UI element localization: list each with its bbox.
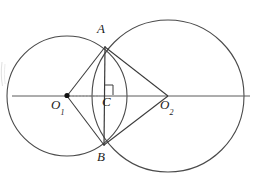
label-center-o1-subscript: 1 (60, 108, 64, 117)
label-center-o2-base: O (160, 97, 169, 112)
geometry-figure: A B C O1 O2 (0, 0, 258, 182)
geometry-canvas (0, 0, 258, 182)
center-dot-o1 (64, 93, 69, 98)
segment-o1-b (67, 96, 104, 145)
label-point-c: C (102, 95, 111, 108)
label-point-b: B (97, 150, 105, 163)
label-center-o2-subscript: 2 (169, 108, 173, 117)
label-center-o1-base: O (51, 97, 60, 112)
segment-o2-a (105, 47, 168, 96)
scan-artifacts (1, 62, 5, 86)
label-point-a: A (97, 22, 105, 35)
segment-o2-b (104, 96, 168, 145)
segment-o1-a (67, 47, 105, 96)
label-center-o1: O1 (51, 98, 64, 115)
label-center-o2: O2 (160, 98, 173, 115)
